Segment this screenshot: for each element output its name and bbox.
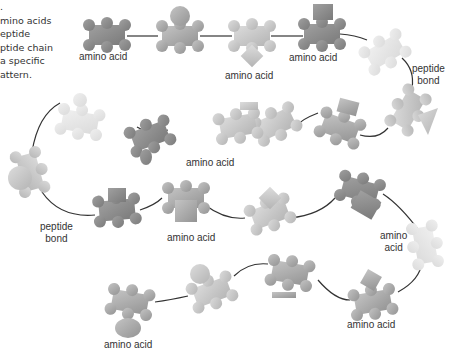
amino-acid-shape	[241, 187, 298, 239]
amino-acid-shape	[53, 93, 107, 144]
amino-acid-shape	[103, 280, 157, 338]
label-amino-acid: amino acid	[347, 319, 395, 331]
label-line: peptide	[40, 221, 73, 233]
amino-acid-shape	[156, 6, 204, 54]
label-amino-acid: amino acid	[380, 230, 407, 254]
label-amino-acid: amino acid	[186, 157, 234, 169]
label-line: amino	[380, 230, 407, 242]
amino-acid-shape	[346, 269, 400, 324]
amino-acid-shape	[403, 218, 447, 272]
amino-acid-shape	[183, 264, 240, 317]
label-amino-acid: amino acid	[289, 52, 337, 64]
label-line: bond	[412, 75, 445, 87]
label-amino-acid: amino acid	[167, 232, 215, 244]
amino-acid-shape	[380, 80, 438, 140]
label-peptide-bond: peptide bond	[40, 221, 73, 245]
amino-acid-shape	[6, 144, 53, 200]
label-peptide-bond: peptide bond	[412, 63, 445, 87]
label-amino-acid: amino acid	[79, 51, 127, 63]
label-amino-acid: amino acid	[225, 70, 273, 82]
label-line: acid	[380, 242, 407, 254]
label-amino-acid: amino acid	[104, 339, 152, 351]
peptide-chain-diagram	[0, 0, 449, 352]
amino-acid-shape	[162, 180, 210, 222]
amino-acid-shape	[311, 98, 368, 153]
amino-acid-shape	[92, 188, 143, 230]
amino-acid-shape	[228, 18, 276, 67]
amino-acid-shape	[83, 17, 131, 53]
amino-acid-shape	[298, 4, 346, 52]
amino-acid-shape	[355, 24, 415, 79]
label-line: peptide	[412, 63, 445, 75]
amino-acid-shape	[263, 251, 317, 298]
amino-acid-shape	[332, 166, 388, 219]
amino-acid-shape	[121, 111, 178, 165]
label-line: bond	[40, 233, 73, 245]
